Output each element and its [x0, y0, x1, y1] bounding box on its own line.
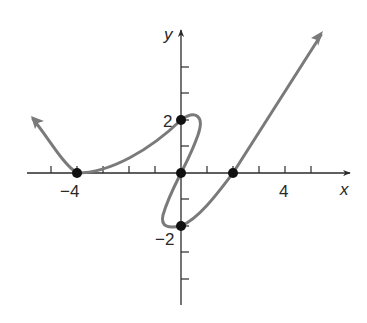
x-tick-label-neg4: −4 — [60, 182, 79, 201]
y-tick-label-2: 2 — [163, 112, 172, 131]
x-tick-label-4: 4 — [279, 182, 288, 201]
graph: y x −4 4 2 −2 — [0, 0, 367, 323]
point-2-0 — [228, 168, 238, 178]
y-axis-label: y — [163, 25, 174, 44]
point-0-0 — [176, 168, 186, 178]
point-0-2 — [176, 115, 186, 125]
point-0-neg2 — [176, 221, 186, 231]
x-axis-label: x — [339, 180, 349, 199]
y-tick-label-neg2: −2 — [155, 230, 174, 249]
point-neg4-0 — [72, 168, 82, 178]
